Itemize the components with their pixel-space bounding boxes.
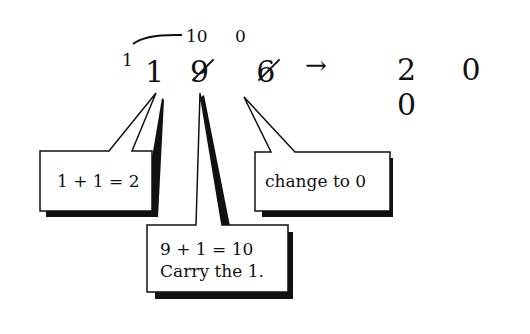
callout-add-hundreds: 1 + 1 = 2 xyxy=(57,170,140,192)
callout-add-tens-line2: Carry the 1. xyxy=(160,260,264,282)
carry-arc xyxy=(133,35,182,44)
digit-ones-struck: 6 xyxy=(256,57,275,87)
result-number: 2 0 0 xyxy=(397,52,530,122)
digit-tens-struck: 9 xyxy=(190,57,209,87)
replacement-ones: 0 xyxy=(235,28,246,45)
callout-change-to-zero: change to 0 xyxy=(265,170,366,192)
callout-graphics xyxy=(0,0,530,334)
replacement-tens: 10 xyxy=(186,28,208,45)
callout-add-tens-line1: 9 + 1 = 10 xyxy=(160,238,253,260)
digit-hundreds: 1 xyxy=(145,57,164,87)
arrow-icon: → xyxy=(305,50,327,80)
carry-digit-small: 1 xyxy=(122,52,133,69)
